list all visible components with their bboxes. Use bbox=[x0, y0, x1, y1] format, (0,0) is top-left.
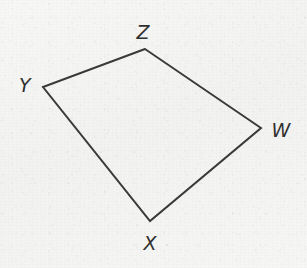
vertex-label-y: Y bbox=[19, 76, 31, 95]
quadrilateral-wxyz-outline bbox=[43, 49, 261, 221]
vertex-label-z: Z bbox=[136, 23, 149, 42]
vertex-label-x: X bbox=[143, 234, 156, 253]
vertex-label-w: W bbox=[272, 121, 291, 140]
quadrilateral-drawing bbox=[0, 0, 307, 268]
geometry-figure: Z Y X W bbox=[0, 0, 307, 268]
